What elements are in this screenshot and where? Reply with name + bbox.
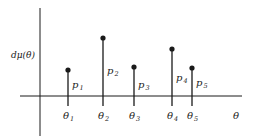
p-label-5-base: p [196, 77, 202, 88]
p-label-3-sub: 3 [145, 84, 149, 92]
theta-label-1: θ1 [63, 111, 74, 121]
p-label-4: p4 [176, 73, 188, 83]
p-label-5: p5 [196, 78, 208, 88]
theta-label-1-sub: 1 [70, 115, 74, 123]
theta-label-4-sub: 4 [174, 115, 178, 123]
point-dot-5 [189, 65, 194, 70]
theta-label-3: θ3 [129, 111, 140, 121]
x-axis-label: θ [233, 111, 239, 121]
point-dot-1 [65, 67, 70, 72]
p-label-1-sub: 1 [79, 84, 83, 92]
theta-label-2: θ2 [98, 111, 109, 121]
theta-label-5: θ5 [187, 111, 198, 121]
p-label-2-sub: 2 [114, 70, 118, 78]
p-label-2-base: p [107, 65, 113, 76]
discrete-measure-diagram: dμ(θ) p1 p2 p3 p4 p5 θ1 θ2 θ3 θ4 θ5 θ [0, 0, 254, 140]
p-label-3: p3 [138, 80, 150, 90]
theta-label-5-base: θ [187, 110, 193, 121]
theta-label-3-sub: 3 [136, 115, 140, 123]
p-label-4-base: p [176, 72, 182, 83]
p-label-3-base: p [138, 79, 144, 90]
diagram-canvas [0, 0, 254, 140]
theta-label-1-base: θ [63, 110, 69, 121]
p-label-1-base: p [72, 79, 78, 90]
p-label-4-sub: 4 [183, 77, 187, 85]
point-dot-2 [100, 35, 105, 40]
theta-label-5-sub: 5 [194, 115, 198, 123]
theta-label-3-base: θ [129, 110, 135, 121]
p-label-2: p2 [107, 66, 119, 76]
theta-label-2-base: θ [98, 110, 104, 121]
theta-label-4: θ4 [167, 111, 178, 121]
point-dot-3 [131, 64, 136, 69]
theta-label-2-sub: 2 [105, 115, 109, 123]
p-label-5-sub: 5 [203, 82, 207, 90]
y-axis-label: dμ(θ) [11, 51, 35, 60]
p-label-1: p1 [72, 80, 84, 90]
point-dot-4 [169, 46, 174, 51]
theta-label-4-base: θ [167, 110, 173, 121]
